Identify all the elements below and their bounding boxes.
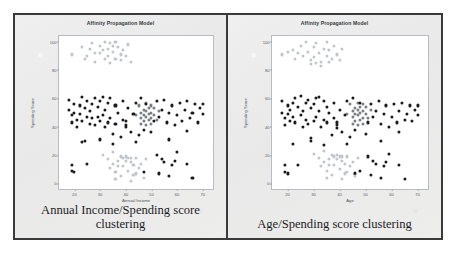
scatter-point [109,97,112,100]
scatter-point [398,110,401,113]
scatter-point [152,119,155,122]
scatter-point [86,162,89,165]
x-axis-tick: 50 [149,192,154,197]
scatter-point [309,59,312,62]
scatter-point [150,122,153,125]
scatter-point [158,172,161,175]
y-axis-tick: 100 [263,39,270,44]
scatter-point [387,125,390,128]
scatter-point [315,115,318,118]
scatter-point [142,119,145,122]
scatter-point [325,40,328,43]
scatter-point [109,61,112,64]
scatter-point [283,124,286,127]
scatter-point [374,162,377,165]
scatter-point [140,122,143,125]
x-axis-tick: 20 [72,192,77,197]
scatter-point [380,122,383,125]
x-axis-tick: 60 [389,192,394,197]
scatter-point [93,60,96,63]
scatter-point [320,64,323,67]
scatter-point [93,124,96,127]
plot-area-left: 020406080100 203040506070 Spending Score… [58,35,214,190]
scatter-point [186,162,189,165]
scatter-point [291,142,294,145]
scatter-point [377,100,380,103]
scatter-point [317,156,320,159]
scatter-point [330,134,333,137]
scatter-point [325,121,328,124]
y-axis-tick: 60 [52,96,57,101]
scatter-point [367,117,370,120]
scatter-point [168,111,171,114]
chart-title-left: Affinity Propagation Model [15,20,226,26]
x-axis-tick: 40 [337,192,342,197]
scatter-point [81,46,84,49]
scatter-point [299,114,302,117]
scatter-point [93,97,96,100]
scatter-point [114,170,117,173]
scatter-point [335,53,338,56]
scatter-point [356,156,359,159]
scatter-point [304,40,307,43]
scatter-point [359,169,362,172]
x-axis-tick: 20 [285,192,290,197]
scatter-point [348,135,351,138]
scatter-point [367,155,370,158]
scatter-point [86,54,89,57]
scatter-point [73,111,76,114]
scatter-point [111,162,114,165]
scatter-point [114,178,117,181]
scatter-point [137,134,140,137]
scatter-point [178,101,181,104]
scatter-point [145,102,148,105]
scatter-point [322,161,325,164]
scatter-point [91,117,94,120]
scatter-point [119,53,122,56]
scatter-point [312,46,315,49]
scatter-point [322,149,325,152]
scatter-point [88,122,91,125]
scatter-point [395,121,398,124]
scatter-point [127,107,130,110]
scatter-point [155,118,158,121]
scatter-point [398,163,401,166]
scatter-point [328,60,331,63]
scatter-point [99,100,102,103]
scatter-point [351,161,354,164]
scatter-point [81,95,84,98]
scatter-point [281,100,284,103]
x-axis-tick: 30 [98,192,103,197]
scatter-point [382,112,385,115]
scatter-point [317,110,320,113]
scatter-point [335,158,338,161]
scatter-point [119,135,122,138]
scatter-point [114,40,117,43]
scatter-point [124,54,127,57]
scatter-point [299,44,302,47]
scatter-point [416,104,419,107]
y-axis-tick: 80 [52,67,57,72]
scatter-point [302,110,305,113]
scatter-points-right [272,36,428,189]
scatter-point [158,115,161,118]
scatter-point [81,119,84,122]
scatter-point [145,158,148,161]
plot-area-right: 020406080100 203040506070 Spending Score… [271,35,429,190]
scatter-point [333,163,336,166]
scatter-point [193,102,196,105]
scatter-point [122,165,125,168]
scatter-point [152,107,155,110]
scatter-point [124,119,127,122]
scatter-point [129,131,132,134]
scatter-point [181,119,184,122]
scatter-point [122,100,125,103]
scatter-point [127,169,130,172]
scatter-point [140,162,143,165]
x-axis-tick: 40 [123,192,128,197]
scatter-point [111,151,114,154]
scatter-point [382,165,385,168]
scatter-point [170,104,173,107]
scatter-point [124,159,127,162]
scatter-point [307,122,310,125]
